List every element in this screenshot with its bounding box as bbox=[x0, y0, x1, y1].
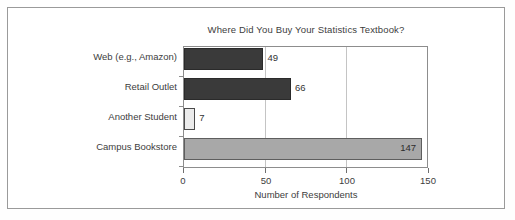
y-axis-tick-label-3: Campus Bookstore bbox=[47, 141, 177, 152]
bar-value-label-2: 7 bbox=[199, 112, 204, 123]
x-axis-tick-1 bbox=[265, 168, 266, 173]
y-axis-tick-label-1: Retail Outlet bbox=[47, 81, 177, 92]
chart-title: Where Did You Buy Your Statistics Textbo… bbox=[183, 24, 429, 35]
plot-area: 49667147 bbox=[183, 46, 428, 168]
y-axis-tick-label-2: Another Student bbox=[47, 111, 177, 122]
bar-row: 49 bbox=[184, 48, 427, 70]
bar-2[interactable] bbox=[184, 108, 195, 130]
x-axis-tick-label-2: 100 bbox=[332, 175, 362, 186]
chart-figure: Where Did You Buy Your Statistics Textbo… bbox=[0, 0, 515, 220]
bar-3[interactable] bbox=[184, 138, 422, 160]
x-axis-tick-2 bbox=[346, 168, 347, 173]
bar-row: 7 bbox=[184, 108, 427, 130]
x-axis-tick-0 bbox=[183, 168, 184, 173]
bar-row: 66 bbox=[184, 78, 427, 100]
bar-value-label-3: 147 bbox=[400, 142, 416, 153]
x-axis-tick-label-0: 0 bbox=[168, 175, 198, 186]
y-axis-tick-label-0: Web (e.g., Amazon) bbox=[47, 51, 177, 62]
x-axis-title: Number of Respondents bbox=[183, 189, 429, 200]
bar-series: 49667147 bbox=[184, 47, 427, 167]
bar-row: 147 bbox=[184, 138, 427, 160]
bar-0[interactable] bbox=[184, 48, 263, 70]
x-axis-tick-3 bbox=[428, 168, 429, 173]
y-axis-category-labels: Web (e.g., Amazon) Retail Outlet Another… bbox=[46, 46, 177, 168]
bar-value-label-0: 49 bbox=[267, 52, 278, 63]
x-axis-tick-label-1: 50 bbox=[251, 175, 281, 186]
bar-1[interactable] bbox=[184, 78, 291, 100]
bar-value-label-1: 66 bbox=[295, 82, 306, 93]
x-axis-tick-label-3: 150 bbox=[413, 175, 443, 186]
